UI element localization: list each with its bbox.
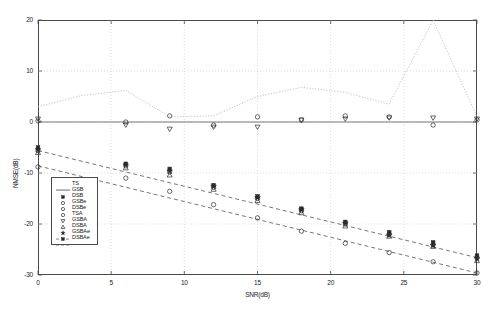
plot-axes-frame (38, 20, 477, 275)
legend-marker-none-icon (54, 234, 72, 240)
y-tick-label: -30 (9, 271, 33, 278)
x-tick-label: 5 (101, 279, 121, 286)
x-tick-label: 20 (321, 279, 341, 286)
legend-label: DSBAe (72, 234, 90, 240)
y-axis-title: NMSE(dB) (12, 159, 19, 188)
x-tick-label: 25 (394, 279, 414, 286)
y-tick-label: 0 (9, 118, 33, 125)
x-tick-label: 10 (174, 279, 194, 286)
x-tick-label: 0 (28, 279, 48, 286)
legend-item: DSBAe (54, 234, 96, 240)
y-tick-label: -20 (9, 220, 33, 227)
x-tick-label: 30 (467, 279, 487, 286)
x-tick-label: 15 (248, 279, 268, 286)
y-tick-label: 20 (9, 16, 33, 23)
chart-legend: TSGSBDSBGSBeDSBeTSAGSBADSBAGSBAeDSBAe (51, 177, 98, 245)
y-tick-label: 10 (9, 67, 33, 74)
x-axis-title: SNR(dB) (218, 291, 298, 298)
figure-container: 20100-10-20-30 051015202530 NMSE(dB) SNR… (0, 0, 497, 311)
